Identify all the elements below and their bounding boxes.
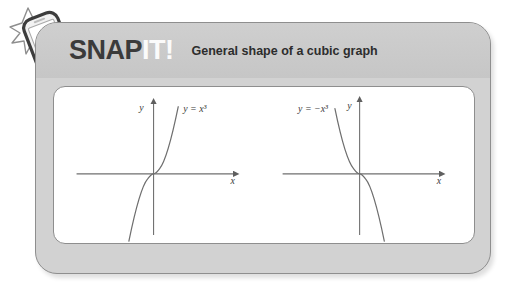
page-title: General shape of a cubic graph (192, 44, 378, 58)
graph-svg-positive-cubic: y x y = x³ (54, 87, 264, 243)
snap-it-panel: SNAPIT! General shape of a cubic graph (35, 22, 491, 274)
y-axis-label: y (138, 102, 144, 113)
graph-svg-negative-cubic: y x y = −x³ (264, 87, 474, 243)
snap-it-header: SNAPIT! General shape of a cubic graph (36, 23, 490, 78)
x-axis-label: x (230, 175, 236, 186)
x-axis-label: x (436, 175, 442, 186)
brand-word-it: IT! (142, 35, 174, 65)
graph-cubic-negative: y x y = −x³ (264, 87, 474, 243)
content-panel: y x y = x³ (53, 86, 475, 244)
equation-label-negative: y = −x³ (297, 103, 329, 114)
y-axis-label: y (346, 100, 352, 111)
brand-word-snap: SNAP (69, 35, 142, 65)
equation-label-positive: y = x³ (182, 103, 207, 114)
graph-container: y x y = x³ (54, 87, 474, 243)
brand-logo: SNAPIT! (69, 37, 174, 64)
graph-cubic-positive: y x y = x³ (54, 87, 264, 243)
